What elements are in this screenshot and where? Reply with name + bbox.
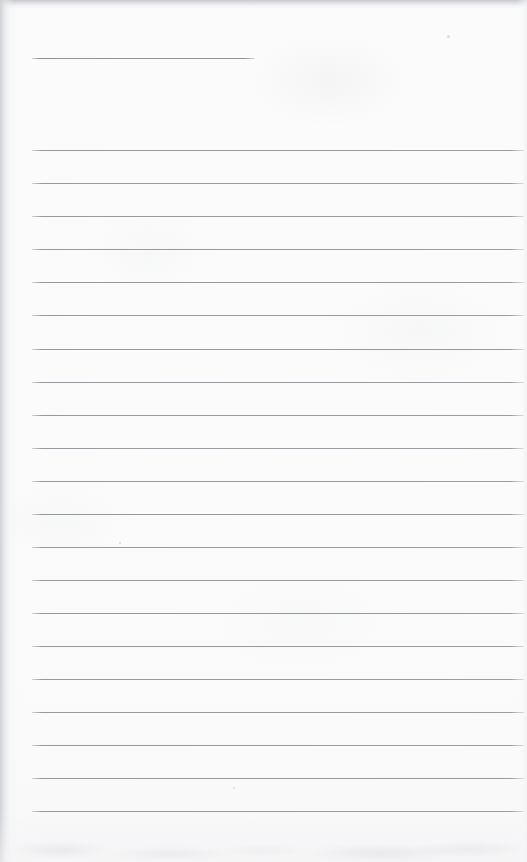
scan-speck [447, 35, 450, 38]
body-writing-area[interactable] [34, 128, 524, 812]
scan-bottom-smudge [0, 810, 527, 862]
title-line-writing-area[interactable] [34, 36, 255, 56]
scanned-page [0, 0, 527, 862]
scan-left-edge-shadow [0, 0, 14, 862]
title-rule [32, 58, 255, 59]
scan-top-edge-shadow [0, 0, 527, 9]
